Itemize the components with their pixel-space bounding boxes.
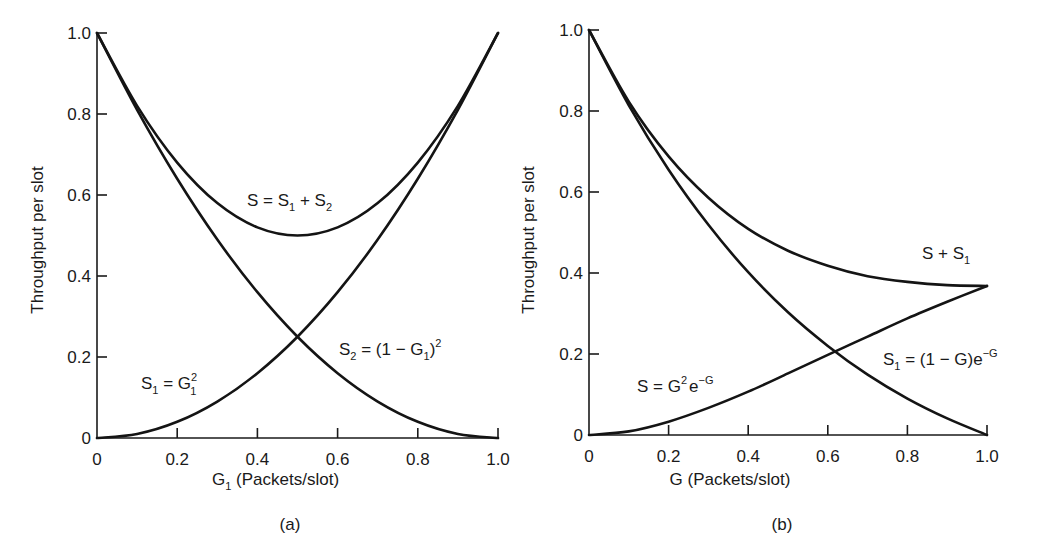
y-tick-label: 0.4	[67, 267, 91, 286]
chart-a-y-axis-label: Throughput per slot	[28, 166, 47, 314]
chart-a-label-s2: S2 = (1 − G1)2	[339, 337, 441, 362]
x-tick-label: 0	[92, 450, 101, 469]
y-tick-label: 1.0	[67, 24, 91, 43]
y-tick-label: 0.6	[559, 183, 583, 202]
x-tick-label: 0.4	[736, 447, 760, 466]
y-tick-label: 0	[574, 426, 583, 445]
chart-b-caption: (b)	[772, 515, 793, 534]
x-tick-label: 1.0	[486, 450, 510, 469]
x-tick-label: 0.2	[165, 450, 189, 469]
y-tick-label: 0.2	[67, 348, 91, 367]
chart-a-label-s1: S1 = G21	[141, 371, 197, 397]
x-tick-label: 1.0	[975, 447, 999, 466]
x-tick-label: 0.2	[657, 447, 681, 466]
y-tick-label: 0.8	[559, 102, 583, 121]
figure: 00.20.40.60.81.000.20.40.60.81.0 Through…	[0, 0, 1041, 559]
chart-a-x-axis-label: G1 (Packets/slot)	[212, 470, 339, 492]
y-tick-label: 0.8	[67, 105, 91, 124]
y-tick-label: 0	[82, 429, 91, 448]
chart-b-label-s: S = G2e−G	[637, 374, 714, 396]
x-tick-label: 0.8	[406, 450, 430, 469]
x-tick-label: 0.6	[326, 450, 350, 469]
chart-b-curves	[589, 30, 987, 435]
chart-a-ticks: 00.20.40.60.81.000.20.40.60.81.0	[67, 24, 509, 469]
y-tick-label: 0.4	[559, 264, 583, 283]
y-tick-label: 0.6	[67, 186, 91, 205]
chart-a-curves	[97, 33, 498, 438]
chart-b-label-sum: S + S1	[922, 244, 970, 266]
chart-b-label-s1: S1 = (1 − G)e−G	[883, 347, 998, 372]
chart-a-label-sum: S = S1 + S2	[247, 191, 332, 213]
chart-a: 00.20.40.60.81.000.20.40.60.81.0 Through…	[28, 24, 510, 534]
chart-b: 00.20.40.60.81.000.20.40.60.81.0 Through…	[519, 21, 999, 534]
y-tick-label: 1.0	[559, 21, 583, 40]
x-tick-label: 0.4	[246, 450, 270, 469]
x-tick-label: 0.8	[896, 447, 920, 466]
chart-b-y-axis-label: Throughput per slot	[519, 166, 538, 314]
chart-b-x-axis-label: G (Packets/slot)	[670, 470, 791, 489]
x-tick-label: 0	[584, 447, 593, 466]
x-tick-label: 0.6	[816, 447, 840, 466]
chart-a-caption: (a)	[280, 515, 301, 534]
y-tick-label: 0.2	[559, 345, 583, 364]
